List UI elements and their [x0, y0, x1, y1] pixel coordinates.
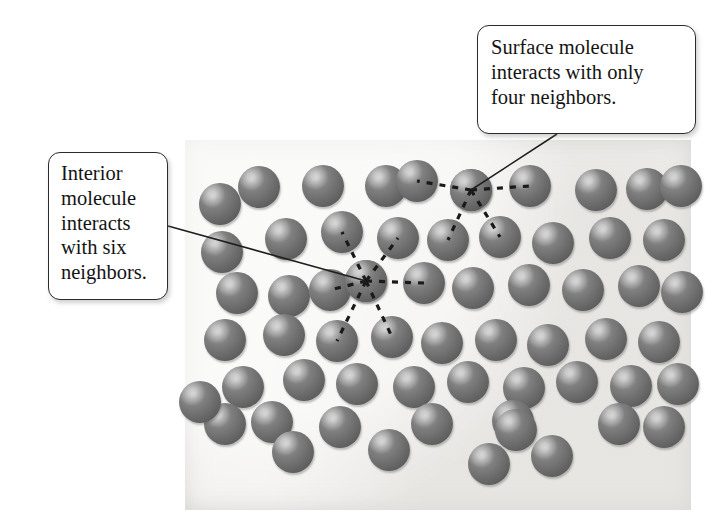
molecule-sphere — [204, 319, 246, 361]
molecule-sphere — [371, 316, 413, 358]
molecule-sphere — [268, 275, 310, 317]
molecule-sphere — [403, 262, 445, 304]
molecule-sphere — [179, 381, 221, 423]
molecule-sphere — [532, 222, 574, 264]
molecule-sphere — [283, 359, 325, 401]
molecule-sphere — [421, 322, 463, 364]
molecule-sphere — [319, 406, 361, 448]
molecule-sphere — [265, 218, 307, 260]
callout-surface-text: Surface molecule interacts with only fou… — [491, 35, 683, 109]
callout-interior-molecule: Interior molecule interacts with six nei… — [48, 152, 168, 300]
molecule-sphere — [427, 219, 469, 261]
callout-interior-text: Interior molecule interacts with six nei… — [61, 161, 157, 285]
molecule-sphere — [475, 319, 517, 361]
molecule-sphere — [452, 267, 494, 309]
figure-canvas: Surface molecule interacts with only fou… — [0, 0, 712, 524]
molecule-sphere — [216, 272, 258, 314]
molecule-sphere — [495, 409, 537, 451]
molecule-sphere — [368, 429, 410, 471]
molecule-sphere — [585, 318, 627, 360]
callout-surface-molecule: Surface molecule interacts with only fou… — [477, 25, 696, 134]
molecule-sphere — [661, 271, 703, 313]
molecule-sphere — [222, 366, 264, 408]
molecule-sphere — [562, 269, 604, 311]
molecule-sphere — [411, 403, 453, 445]
molecule-sphere — [468, 443, 510, 485]
molecule-sphere — [396, 160, 438, 202]
molecule-sphere — [479, 216, 521, 258]
molecule-sphere — [638, 321, 680, 363]
molecule-sphere — [509, 165, 551, 207]
molecule-sphere — [657, 363, 699, 405]
molecule-sphere — [556, 361, 598, 403]
molecule-sphere — [527, 324, 569, 366]
molecule-sphere — [199, 183, 241, 225]
molecule-sphere — [336, 363, 378, 405]
highlighted-surface-molecule — [450, 169, 492, 211]
molecule-sphere — [531, 435, 573, 477]
molecule-sphere — [610, 365, 652, 407]
molecule-sphere — [598, 403, 640, 445]
molecule-sphere — [302, 165, 344, 207]
molecule-sphere — [263, 314, 305, 356]
molecule-sphere — [575, 169, 617, 211]
molecule-sphere — [377, 217, 419, 259]
molecule-sphere — [272, 431, 314, 473]
molecule-sphere — [201, 231, 243, 273]
molecule-sphere — [393, 366, 435, 408]
molecule-sphere — [508, 264, 550, 306]
molecule-sphere — [321, 211, 363, 253]
molecule-sphere — [643, 219, 685, 261]
molecule-sphere — [660, 165, 702, 207]
molecule-sphere — [643, 406, 685, 448]
molecule-sphere — [618, 265, 660, 307]
molecule-sphere — [316, 320, 358, 362]
highlighted-interior-molecule — [345, 260, 387, 302]
molecule-sphere — [589, 217, 631, 259]
molecule-sphere — [238, 166, 280, 208]
molecule-sphere — [447, 361, 489, 403]
